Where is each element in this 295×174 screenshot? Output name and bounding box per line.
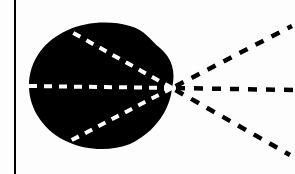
ray-diagram [0,0,295,174]
outer-ray-lower [172,88,290,155]
outer-ray-middle [172,88,295,90]
outer-black-dashed-rays [172,26,295,155]
diagram-canvas [0,0,295,174]
outer-ray-upper [172,26,292,88]
